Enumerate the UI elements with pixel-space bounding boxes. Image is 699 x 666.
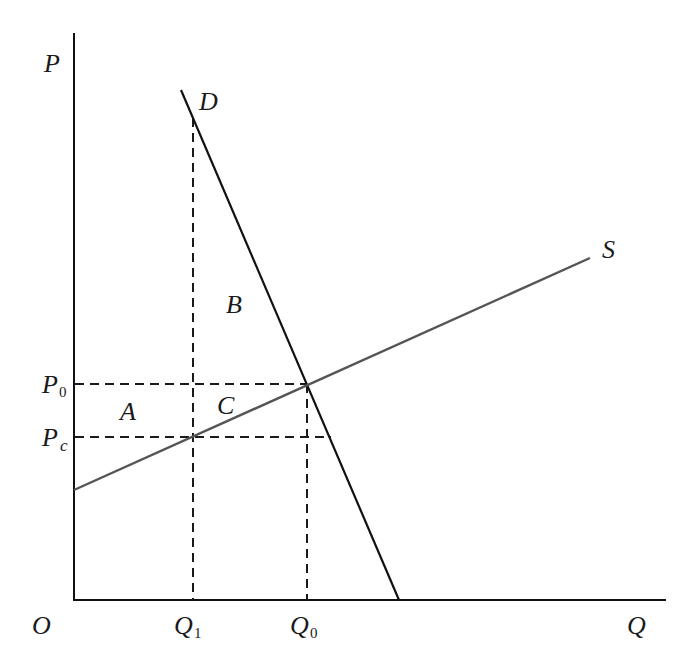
demand-curve <box>181 90 399 600</box>
origin-label: O <box>32 611 51 640</box>
price-label-p0: P 0 <box>41 370 67 400</box>
quantity-label-q1: Q 1 <box>174 611 202 641</box>
supply-demand-diagram: P D S B A C P 0 P c O Q Q 1 Q 0 <box>0 0 699 666</box>
region-b-label: B <box>226 290 242 319</box>
svg-text:1: 1 <box>194 625 202 641</box>
x-axis-label: Q <box>627 611 646 640</box>
supply-curve <box>74 258 590 490</box>
svg-text:0: 0 <box>59 384 67 400</box>
svg-text:Q: Q <box>174 611 193 640</box>
price-label-pc: P c <box>41 423 68 455</box>
region-c-label: C <box>217 391 235 420</box>
demand-label: D <box>198 87 218 116</box>
quantity-label-q0: Q 0 <box>290 611 318 641</box>
region-a-label: A <box>118 397 136 426</box>
dashed-guides <box>75 118 331 600</box>
svg-text:P: P <box>41 370 58 399</box>
y-axis-label: P <box>43 49 60 78</box>
svg-text:0: 0 <box>310 625 318 641</box>
svg-text:P: P <box>41 423 58 452</box>
svg-text:Q: Q <box>290 611 309 640</box>
svg-text:c: c <box>60 436 68 455</box>
supply-label: S <box>602 235 615 264</box>
